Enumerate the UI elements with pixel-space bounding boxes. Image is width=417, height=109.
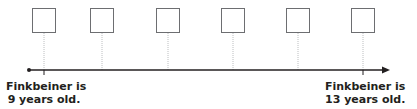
answer-box-3[interactable] bbox=[157, 9, 180, 33]
start-label-line2: 9 years old. bbox=[6, 93, 82, 106]
end-label: Finkbeiner is 13 years old. bbox=[325, 80, 405, 106]
end-label-line2: 13 years old. bbox=[325, 93, 405, 106]
answer-box-2[interactable] bbox=[91, 9, 114, 33]
arrow-head-icon bbox=[382, 67, 390, 74]
answer-box-1[interactable] bbox=[33, 9, 56, 33]
answer-box-6[interactable] bbox=[352, 9, 375, 33]
end-label-line1: Finkbeiner is bbox=[325, 80, 405, 93]
start-label: Finkbeiner is 9 years old. bbox=[6, 80, 82, 106]
answer-box-5[interactable] bbox=[287, 9, 310, 33]
answer-box-4[interactable] bbox=[222, 9, 245, 33]
start-dot-icon bbox=[27, 68, 31, 72]
start-label-line1: Finkbeiner is bbox=[6, 80, 82, 93]
